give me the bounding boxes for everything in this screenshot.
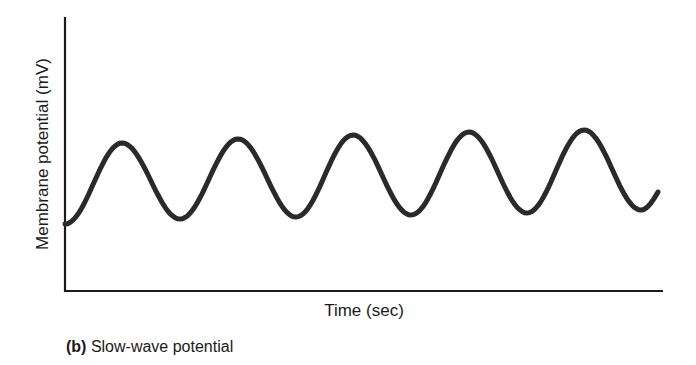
caption-text: Slow-wave potential	[86, 338, 233, 355]
figure-caption: (b) Slow-wave potential	[66, 338, 233, 356]
slow-wave-figure: Membrane potential (mV) Time (sec) (b) S…	[0, 0, 696, 365]
x-axis-label: Time (sec)	[324, 301, 404, 321]
caption-tag: (b)	[66, 338, 86, 355]
y-axis-label: Membrane potential (mV)	[33, 58, 53, 250]
slow-wave-line	[65, 130, 658, 224]
